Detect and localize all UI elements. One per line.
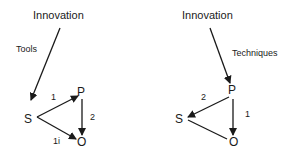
left-edge-s-p — [37, 96, 78, 117]
diagram-lines — [0, 0, 295, 152]
right-edge-label-p-s: 2 — [201, 93, 206, 102]
left-innovation-arrow — [31, 28, 60, 100]
right-techniques-label: Techniques — [232, 48, 278, 58]
left-edge-label-s-o: 1i — [53, 137, 60, 146]
right-edge-s-o — [188, 120, 227, 139]
left-edge-label-s-p: 1 — [51, 93, 56, 102]
left-tools-label: Tools — [16, 44, 37, 54]
left-node-s: S — [24, 113, 32, 125]
right-innovation-title: Innovation — [182, 10, 233, 20]
right-edge-label-p-o: 1 — [245, 110, 250, 119]
right-node-s: S — [175, 113, 183, 125]
right-node-o: O — [229, 136, 238, 148]
right-innovation-arrow — [210, 28, 230, 83]
left-node-o: O — [77, 136, 86, 148]
right-node-p: P — [228, 84, 236, 96]
right-edge-p-s — [188, 97, 229, 117]
left-node-p: P — [77, 86, 85, 98]
left-edge-label-p-o: 2 — [90, 113, 95, 122]
left-innovation-title: Innovation — [33, 10, 84, 20]
